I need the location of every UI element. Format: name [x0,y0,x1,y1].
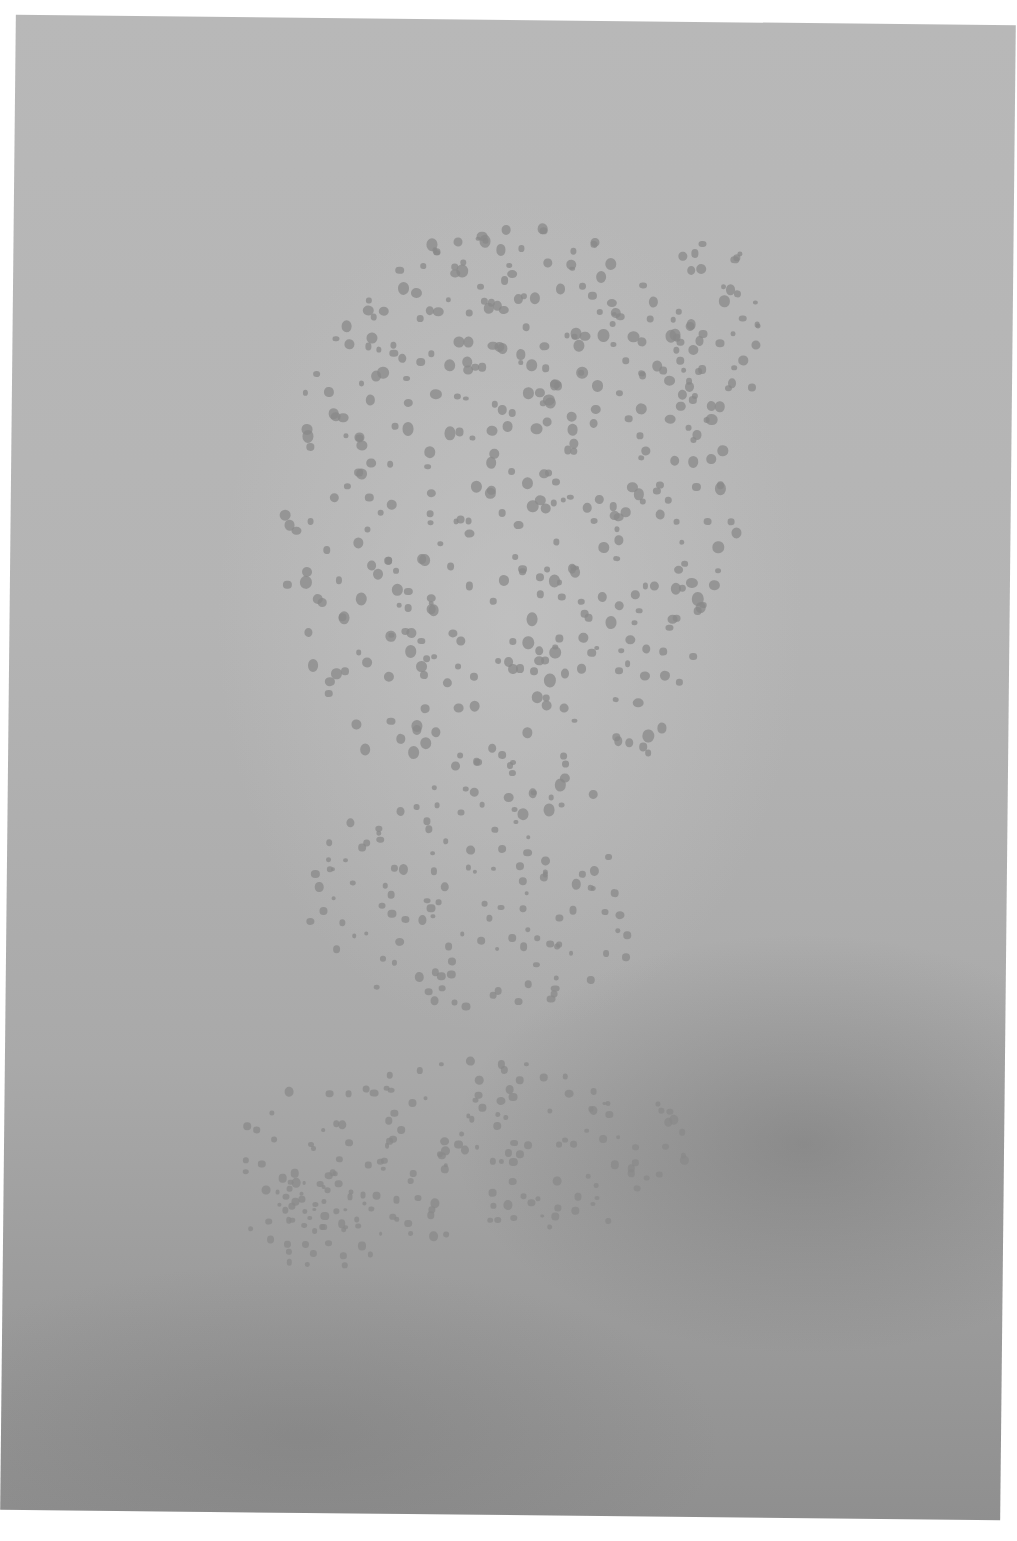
flower-mark [531,423,542,434]
flower-mark [643,644,651,653]
flower-mark [325,1240,332,1246]
flower-mark [512,554,518,560]
flower-mark [285,520,295,531]
flower-mark [614,526,620,532]
flower-mark [258,1160,265,1168]
flower-mark [368,1252,372,1257]
flower-mark [424,464,431,470]
flower-mark [541,656,549,664]
flower-mark [396,267,405,275]
flower-mark [451,269,460,277]
flower-mark [448,629,457,637]
flower-mark [302,1181,306,1184]
flower-mark [325,690,333,697]
flower-mark [492,401,498,408]
flower-mark [594,645,600,650]
flower-mark [364,932,368,936]
flower-mark [728,519,735,525]
flower-mark [753,301,758,305]
flower-mark [614,601,623,610]
flower-mark [405,645,416,658]
flower-mark [421,704,430,712]
flower-mark [466,865,471,871]
flower-mark [248,1226,253,1231]
flower-mark [535,935,541,941]
flower-mark [370,314,376,321]
flower-mark [570,439,579,449]
flower-mark [583,503,592,513]
flower-mark [364,527,370,533]
flower-mark [580,332,591,341]
flower-mark [392,960,397,966]
flower-mark [656,1101,660,1106]
flower-mark [593,1183,598,1188]
flower-mark [690,653,697,660]
flower-mark [632,620,638,625]
flower-mark [676,309,681,315]
flower-mark [408,1178,414,1184]
flower-mark [522,727,532,739]
flower-mark [578,599,585,605]
flower-mark [444,359,455,371]
flower-mark [497,1097,506,1105]
flower-mark [279,509,290,520]
flower-mark [666,1108,673,1114]
flower-mark [664,376,675,386]
flower-marks [0,15,1016,1520]
flower-mark [725,385,732,391]
flower-mark [564,332,570,338]
flower-mark [545,469,552,476]
flower-mark [312,1228,317,1234]
flower-mark [354,1216,359,1222]
flower-mark [416,661,427,672]
flower-mark [439,1062,444,1067]
flower-mark [717,481,724,489]
flower-mark [700,602,707,608]
flower-mark [698,365,705,374]
flower-mark [323,546,330,554]
flower-mark [302,1241,309,1248]
flower-mark [339,919,346,927]
flower-mark [533,962,540,968]
flower-mark [526,359,537,371]
flower-mark [487,1217,493,1223]
flower-mark [336,577,342,584]
flower-mark [530,667,538,675]
flower-mark [576,367,588,379]
flower-mark [547,995,555,1002]
flower-mark [598,328,609,342]
flower-mark [523,849,531,856]
flower-mark [283,580,291,588]
flower-mark [634,489,644,500]
flower-mark [548,1109,553,1114]
flower-mark [462,357,472,368]
flower-mark [431,654,437,660]
flower-mark [498,405,507,415]
flower-mark [586,1174,591,1179]
flower-mark [338,1220,346,1228]
flower-mark [625,415,633,421]
flower-mark [391,423,399,430]
flower-mark [665,415,676,424]
flower-mark [560,773,570,783]
flower-mark [367,459,376,468]
flower-mark [487,915,493,922]
flower-mark [554,943,560,949]
flower-mark [567,494,574,499]
flower-mark [490,1158,496,1165]
flower-mark [659,1108,665,1114]
flower-mark [624,931,632,939]
flower-mark [324,1187,330,1193]
flower-mark [615,928,621,933]
flower-mark [599,1135,607,1143]
flower-mark [715,339,725,347]
flower-mark [632,1144,639,1150]
flower-mark [475,1145,479,1150]
flower-mark [510,1215,517,1221]
flower-mark [382,883,388,889]
flower-mark [667,615,678,624]
flower-mark [588,1106,594,1112]
flower-mark [441,1165,449,1173]
flower-mark [550,380,559,391]
flower-mark [514,820,519,825]
